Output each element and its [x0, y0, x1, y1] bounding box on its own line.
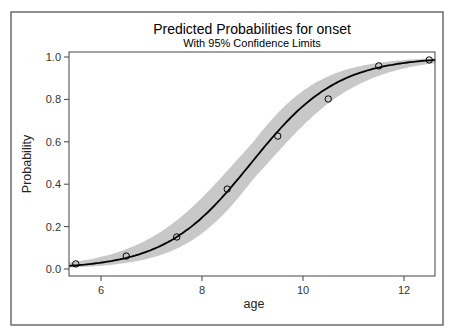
x-tick-label: 10 [297, 284, 309, 296]
x-tick-label: 6 [98, 284, 104, 296]
y-tick-label: 0.4 [46, 178, 61, 190]
y-tick-label: 0.8 [46, 93, 61, 105]
outer-frame [11, 12, 443, 325]
y-axis-label: Probability [20, 134, 34, 193]
x-tick-label: 8 [199, 284, 205, 296]
y-tick-label: 1.0 [46, 51, 61, 63]
y-tick-label: 0.2 [46, 221, 61, 233]
chart-subtitle: With 95% Confidence Limits [183, 37, 321, 49]
y-tick-label: 0.6 [46, 136, 61, 148]
chart: Predicted Probabilities for onset With 9… [0, 0, 452, 336]
y-tick-label: 0.0 [46, 263, 61, 275]
chart-title: Predicted Probabilities for onset [153, 21, 351, 37]
x-axis-label: age [244, 297, 265, 311]
x-tick-label: 12 [398, 284, 410, 296]
